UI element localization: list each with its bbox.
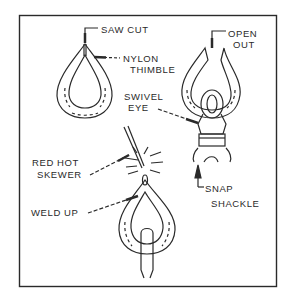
label-out: OUT bbox=[233, 39, 255, 50]
snap-shackle-leader bbox=[195, 165, 204, 187]
label-weld-up: WELD UP bbox=[31, 207, 78, 218]
open-thimble-drawing bbox=[182, 48, 240, 162]
label-eye: EYE bbox=[128, 102, 149, 113]
welded-thimble-drawing bbox=[119, 175, 175, 278]
weld-up-leader bbox=[88, 196, 138, 213]
label-snap: SNAP bbox=[205, 183, 233, 194]
label-swivel: SWIVEL bbox=[124, 91, 164, 102]
label-open: OPEN bbox=[228, 28, 257, 39]
label-saw-cut: SAW CUT bbox=[101, 24, 149, 35]
skewer-drawing bbox=[124, 126, 163, 174]
thimble-drawing bbox=[57, 44, 112, 118]
label-nylon: NYLON bbox=[123, 53, 159, 64]
nylon-thimble-leader bbox=[94, 57, 120, 58]
label-red-hot: RED HOT bbox=[32, 157, 79, 168]
saw-cut-leader bbox=[85, 28, 98, 43]
label-shackle: SHACKLE bbox=[211, 198, 260, 209]
label-thimble: THIMBLE bbox=[130, 64, 175, 75]
red-hot-skewer-leader bbox=[90, 155, 129, 175]
open-out-leader bbox=[212, 31, 226, 48]
label-skewer: SKEWER bbox=[37, 169, 82, 180]
swivel-eye-leader bbox=[158, 109, 198, 123]
